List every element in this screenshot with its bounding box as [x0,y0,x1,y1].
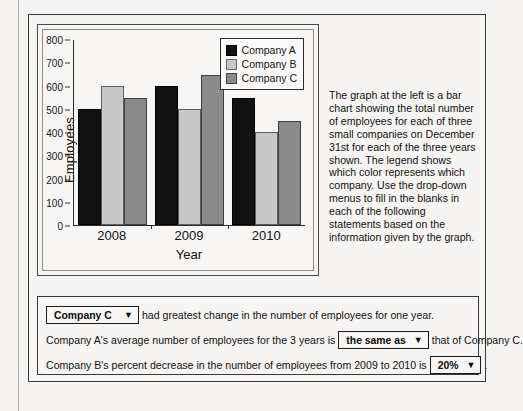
x-tick-label-2010: 2010 [228,228,305,244]
y-tick-label: 600 [46,81,63,92]
legend-label: Company A [242,44,296,56]
bar-2009-company-a [155,86,178,224]
y-tick-label: 400 [46,128,63,139]
y-tick-label: 0 [57,221,63,232]
legend-item-company-a: Company A [226,43,297,57]
bar-chart: Employees 800 700 600 500 400 300 [37,24,319,276]
y-tick-label: 800 [46,35,63,46]
dropdown-percent-decrease[interactable]: 20% ▼ [430,356,482,374]
statement-row-2: Company A's average number of employees … [46,328,470,352]
bar-group-2008 [74,40,151,225]
page-margin-rule [18,0,19,411]
legend-item-company-b: Company B [226,57,297,71]
dropdown-average-comparison[interactable]: the same as ▼ [338,331,428,349]
statement-2-text-after: that of Company C. [429,334,523,346]
y-axis-ticks: 800 700 600 500 400 300 200 [43,40,70,226]
instructions-text: The graph at the left is a bar chart sho… [329,89,479,244]
bar-2008-company-a [78,109,101,224]
legend-swatch-icon [226,45,237,56]
dropdown-company-greatest-change[interactable]: Company C ▼ [46,306,139,324]
y-tick-label: 100 [46,197,63,208]
bar-2010-company-c [278,121,301,225]
y-tick-mark [65,133,70,134]
chevron-down-icon: ▼ [124,311,133,320]
bar-2008-company-b [101,86,124,224]
question-panel: Employees 800 700 600 500 400 300 [28,14,486,382]
dropdown-value: Company C [54,310,112,321]
y-tick-mark [65,226,70,227]
statement-3-text-after: . [481,359,487,371]
y-tick-mark [65,202,70,203]
statement-1-text-after: had greatest change in the number of emp… [139,309,434,321]
y-tick-label: 500 [46,104,63,115]
y-tick-mark [65,156,70,157]
x-tick-label-2009: 2009 [150,228,227,244]
y-tick-mark [65,40,70,41]
chart-inner-frame: Employees 800 700 600 500 400 300 [42,29,314,271]
statement-3-text-before: Company B's percent decrease in the numb… [46,359,430,371]
bar-2010-company-a [232,98,255,225]
statement-row-3: Company B's percent decrease in the numb… [46,353,470,377]
chevron-down-icon: ▼ [466,361,475,370]
chart-and-instructions-region: Employees 800 700 600 500 400 300 [29,15,485,283]
y-tick-label: 700 [46,58,63,69]
y-tick-mark [65,179,70,180]
x-axis-line [73,225,305,226]
y-tick-mark [65,109,70,110]
legend-swatch-icon [226,59,237,70]
legend-label: Company B [242,58,297,70]
bar-2009-company-c [201,75,224,225]
y-tick-label: 200 [46,174,63,185]
legend-swatch-icon [226,73,237,84]
legend-item-company-c: Company C [226,71,297,85]
y-tick-mark [65,86,70,87]
bar-2010-company-b [255,132,278,224]
y-tick-mark [65,63,70,64]
statement-2-text-before: Company A's average number of employees … [46,334,338,346]
x-axis-title: Year [73,247,305,262]
bar-2008-company-c [124,98,147,225]
chevron-down-icon: ▼ [414,336,423,345]
legend-label: Company C [242,72,297,84]
dropdown-value: the same as [346,335,406,346]
y-tick-label: 300 [46,151,63,162]
dropdown-value: 20% [438,360,459,371]
bar-group-2009 [151,40,228,225]
chart-legend: Company A Company B Company C [220,38,304,90]
statement-row-1: Company C ▼ had greatest change in the n… [46,303,470,327]
statements-box: Company C ▼ had greatest change in the n… [37,296,479,375]
bar-2009-company-b [178,109,201,224]
x-tick-label-2008: 2008 [73,228,150,244]
x-axis-ticks: 2008 2009 2010 [73,228,305,244]
